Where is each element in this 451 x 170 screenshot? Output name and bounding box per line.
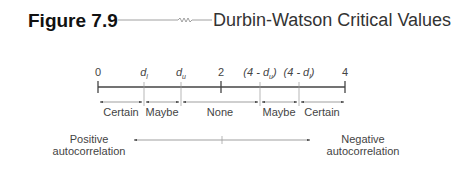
squiggle-icon — [178, 18, 196, 22]
region-maybe-positive: Maybe — [145, 106, 178, 118]
negative-autocorrelation-label: Negative autocorrelation — [318, 133, 408, 157]
tick-label-dl: dl — [140, 66, 148, 80]
tick-label-2: 2 — [218, 66, 224, 78]
region-maybe-negative: Maybe — [262, 106, 295, 118]
region-certain-positive: Certain — [103, 106, 138, 118]
positive-autocorrelation-label: Positive autocorrelation — [44, 133, 134, 157]
tick-label-0: 0 — [95, 66, 101, 78]
tick-label-du: du — [176, 66, 186, 80]
region-certain-negative: Certain — [304, 106, 339, 118]
figure-title: Durbin-Watson Critical Values — [213, 10, 451, 31]
tick-label-4-du: (4 - du) — [243, 66, 276, 80]
region-none: None — [207, 106, 233, 118]
tick-label-4-dl: (4 - dl) — [284, 66, 315, 80]
tick-label-4: 4 — [342, 66, 348, 78]
